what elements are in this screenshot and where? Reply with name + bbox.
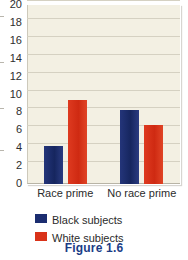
gridline: [27, 72, 180, 73]
legend-swatch-white-subjects: [35, 232, 47, 241]
page-edge-mark: [0, 108, 4, 109]
y-axis-tick-label: 18: [0, 17, 22, 28]
x-axis-category-label: No race prime: [104, 187, 181, 199]
bar-white-subjects: [144, 125, 163, 184]
legend-swatch-black-subjects: [35, 214, 47, 223]
y-axis-tick-label: 2: [0, 160, 22, 171]
figure-caption: Figure 1.6: [0, 241, 188, 255]
bar-black-subjects: [120, 110, 139, 184]
y-axis-tick-label: 10: [0, 89, 22, 100]
gridline: [27, 54, 180, 55]
bar-chart: 20181614121086420 Race primeNo race prim…: [0, 0, 188, 192]
page-edge-mark: [0, 150, 4, 151]
legend-label-black-subjects: Black subjects: [52, 213, 122, 227]
legend-item-black-subjects: Black subjects: [35, 212, 153, 226]
gridline: [27, 107, 180, 108]
page-edge-mark: [0, 16, 4, 17]
gridline: [27, 90, 180, 91]
figure-container: 20181614121086420 Race primeNo race prim…: [0, 0, 188, 260]
y-axis-tick-label: 12: [0, 71, 22, 82]
x-axis-category-label: Race prime: [27, 187, 104, 199]
page-edge-mark: [0, 62, 4, 63]
gridline: [27, 0, 180, 1]
gridline: [27, 18, 180, 19]
bar-white-subjects: [68, 100, 87, 184]
y-axis-tick-label: 6: [0, 124, 22, 135]
gridline: [27, 36, 180, 37]
y-axis-tick-label: 0: [0, 178, 22, 189]
y-axis-tick-label: 20: [0, 0, 22, 10]
bar-black-subjects: [44, 146, 63, 184]
y-axis-tick-label: 4: [0, 142, 22, 153]
y-axis-tick-label: 16: [0, 35, 22, 46]
